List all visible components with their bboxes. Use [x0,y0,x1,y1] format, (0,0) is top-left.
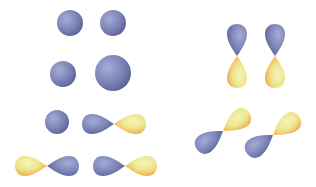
s-orbital-sphere-large [95,55,131,91]
positive-lobe [227,56,247,88]
p-orbital-vertical [265,24,285,88]
s-orbital-sphere [45,110,69,134]
p-orbital-horizontal [93,156,157,176]
positive-lobe [217,104,255,139]
positive-lobe [267,108,305,143]
p-orbital-horizontal [15,156,79,176]
s-orbital-sphere [57,10,83,36]
s-orbital-sphere [100,10,126,36]
positive-lobe [125,156,157,176]
orbital-diagram [0,0,316,187]
negative-lobe [82,114,114,134]
negative-lobe [191,123,229,158]
positive-lobe [114,114,146,134]
negative-lobe [93,156,125,176]
p-orbital-horizontal [82,114,146,134]
negative-lobe [265,24,285,56]
positive-lobe [15,156,47,176]
negative-lobe [241,127,279,162]
negative-lobe [227,24,247,56]
s-orbital-sphere [50,61,76,87]
positive-lobe [265,56,285,88]
negative-lobe [47,156,79,176]
p-orbital-vertical [227,24,247,88]
